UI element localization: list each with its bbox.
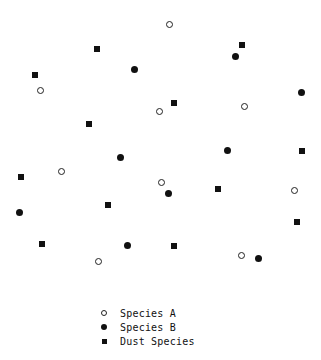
open-circle-icon	[291, 187, 298, 194]
filled-square-icon	[171, 100, 177, 106]
filled-circle-icon	[298, 89, 305, 96]
filled-square-icon	[239, 42, 245, 48]
filled-square-icon	[32, 72, 38, 78]
legend-label: Species A	[120, 308, 176, 319]
open-circle-icon	[37, 87, 44, 94]
open-circle-icon	[166, 21, 173, 28]
filled-circle-icon	[224, 147, 231, 154]
filled-circle-icon	[124, 242, 131, 249]
legend: Species A Species B Dust Species	[100, 306, 195, 348]
filled-square-icon	[39, 241, 45, 247]
open-circle-icon	[158, 179, 165, 186]
legend-item-species-b: Species B	[100, 320, 195, 334]
filled-square-icon	[86, 121, 92, 127]
open-circle-icon	[238, 252, 245, 259]
filled-square-icon	[299, 148, 305, 154]
filled-circle-icon	[165, 190, 172, 197]
legend-item-dust-species: Dust Species	[100, 334, 195, 348]
open-circle-icon	[241, 103, 248, 110]
filled-square-icon	[100, 337, 108, 345]
filled-square-icon	[18, 174, 24, 180]
filled-square-icon	[105, 202, 111, 208]
legend-label: Dust Species	[120, 336, 195, 347]
filled-circle-icon	[100, 323, 108, 331]
filled-circle-icon	[16, 209, 23, 216]
filled-circle-icon	[255, 255, 262, 262]
legend-item-species-a: Species A	[100, 306, 195, 320]
open-circle-icon	[100, 309, 108, 317]
open-circle-icon	[95, 258, 102, 265]
filled-circle-icon	[131, 66, 138, 73]
filled-square-icon	[94, 46, 100, 52]
filled-square-icon	[215, 186, 221, 192]
open-circle-icon	[58, 168, 65, 175]
filled-circle-icon	[232, 53, 239, 60]
filled-square-icon	[171, 243, 177, 249]
particle-field	[0, 0, 321, 275]
open-circle-icon	[156, 108, 163, 115]
legend-label: Species B	[120, 322, 176, 333]
filled-circle-icon	[117, 154, 124, 161]
filled-square-icon	[294, 219, 300, 225]
